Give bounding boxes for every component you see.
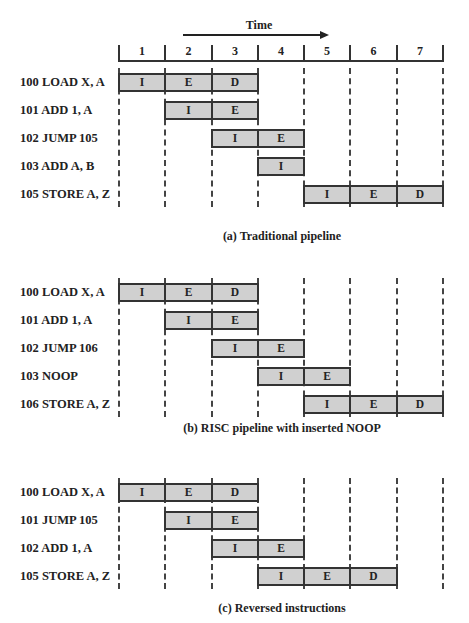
instruction-label: 106 STORE A, Z (20, 395, 110, 414)
stage-instruction-fetch: I (118, 483, 166, 502)
stage-execute: E (257, 539, 305, 558)
stage-execute: E (257, 129, 305, 148)
stage-execute: E (303, 367, 351, 386)
instruction-label: 101 ADD 1, A (20, 101, 92, 120)
stage-execute: E (257, 339, 305, 358)
stage-instruction-fetch: I (257, 367, 305, 386)
stage-execute: E (211, 511, 259, 530)
instruction-label: 100 LOAD X, A (20, 73, 105, 92)
instruction-label: 105 STORE A, Z (20, 567, 110, 586)
cycle-number: 7 (397, 44, 443, 59)
stage-instruction-fetch: I (164, 311, 213, 330)
stage-memory: D (211, 73, 259, 92)
stage-memory: D (396, 185, 444, 204)
instruction-label: 102 JUMP 105 (20, 129, 98, 148)
stage-instruction-fetch: I (303, 185, 351, 204)
cycle-number: 6 (350, 44, 397, 59)
stage-instruction-fetch: I (118, 283, 166, 302)
stage-execute: E (211, 311, 259, 330)
stage-memory: D (349, 567, 398, 586)
stage-instruction-fetch: I (164, 511, 213, 530)
instruction-label: 100 LOAD X, A (20, 283, 105, 302)
cycle-number: 4 (258, 44, 304, 59)
stage-execute: E (164, 483, 213, 502)
cycle-number: 3 (212, 44, 258, 59)
diagram-caption: (c) Reversed instructions (218, 601, 345, 616)
stage-memory: D (211, 283, 259, 302)
time-arrow-line (183, 34, 321, 36)
stage-instruction-fetch: I (257, 157, 305, 176)
stage-execute: E (349, 185, 398, 204)
stage-execute: E (211, 101, 259, 120)
stage-instruction-fetch: I (164, 101, 213, 120)
arrow-right-icon (320, 31, 329, 39)
stage-execute: E (164, 73, 213, 92)
diagram-caption: (b) RISC pipeline with inserted NOOP (183, 421, 381, 436)
instruction-label: 101 ADD 1, A (20, 311, 92, 330)
stage-memory: D (396, 395, 444, 414)
stage-execute: E (303, 567, 351, 586)
stage-instruction-fetch: I (211, 539, 259, 558)
instruction-label: 101 JUMP 105 (20, 511, 98, 530)
time-label: Time (246, 18, 272, 33)
instruction-label: 100 LOAD X, A (20, 483, 105, 502)
cycle-number: 5 (304, 44, 350, 59)
stage-instruction-fetch: I (303, 395, 351, 414)
stage-memory: D (211, 483, 259, 502)
stage-instruction-fetch: I (257, 567, 305, 586)
stage-execute: E (164, 283, 213, 302)
cycle-number: 2 (165, 44, 212, 59)
instruction-label: 102 ADD 1, A (20, 539, 92, 558)
stage-instruction-fetch: I (211, 129, 259, 148)
stage-instruction-fetch: I (118, 73, 166, 92)
instruction-label: 102 JUMP 106 (20, 339, 98, 358)
diagram-caption: (a) Traditional pipeline (223, 229, 341, 244)
cycle-gridline (442, 478, 444, 589)
cycle-number: 1 (119, 44, 165, 59)
cycle-baseline (119, 60, 443, 62)
stage-instruction-fetch: I (211, 339, 259, 358)
instruction-label: 105 STORE A, Z (20, 185, 110, 204)
instruction-label: 103 ADD A, B (20, 157, 94, 176)
instruction-label: 103 NOOP (20, 367, 78, 386)
stage-execute: E (349, 395, 398, 414)
